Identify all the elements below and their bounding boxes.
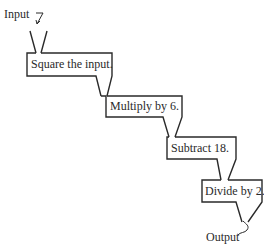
input-label: Input [4, 8, 29, 21]
step-box-1-label: Square the input. [31, 58, 113, 71]
output-label: Output [206, 231, 239, 244]
step-box-4-label: Divide by 2. [205, 185, 264, 198]
flow-diagram-lines [0, 0, 264, 250]
input-funnel [30, 31, 47, 53]
step-box-2-label: Multiply by 6. [110, 100, 179, 113]
output-arrow-icon [238, 221, 248, 235]
step-box-3-label: Subtract 18. [171, 142, 229, 155]
input-arrow-icon [36, 13, 43, 24]
